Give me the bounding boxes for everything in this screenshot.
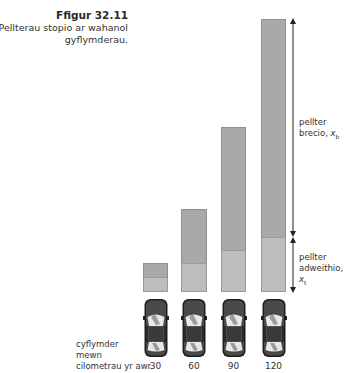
reaction-label-text: adweithio, [299,263,343,273]
speed-axis-line2: mewn [76,350,151,361]
car-top-view-icon [261,298,287,358]
braking-label-line2: brecio, xb [299,128,339,142]
reaction-distance-label: pellter adweithio, xt [299,252,352,288]
braking-subscript: b [336,133,340,140]
car-icon [181,298,207,358]
car-icon [261,298,287,358]
reaction-label-line1: pellter [299,252,352,263]
braking-label-line1: pellter [299,117,339,128]
braking-label-text: brecio, [299,128,331,138]
reaction-label-line2: adweithio, xt [299,263,352,288]
speed-axis-line3: cilometrau yr awr [76,361,151,372]
speed-label: 90 [219,361,249,371]
speed-label: 120 [259,361,289,371]
speed-label: 60 [179,361,209,371]
speed-axis-line1: cyflymder [76,339,151,350]
reaction-subscript: t [304,279,306,286]
car-top-view-icon [181,298,207,358]
speed-axis-label: cyflymder mewn cilometrau yr awr [76,339,151,372]
car-icon [221,298,247,358]
dimension-arrows [0,0,352,373]
braking-distance-label: pellter brecio, xb [299,117,339,142]
car-top-view-icon [221,298,247,358]
